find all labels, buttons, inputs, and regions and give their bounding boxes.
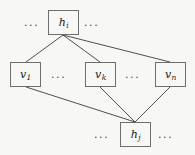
node-h-i[interactable]: hi [48, 10, 79, 35]
ellipsis-bottom-left: ... [94, 129, 109, 140]
node-h-j-label: hj [131, 129, 140, 140]
ellipsis-middle-right: ... [125, 69, 140, 80]
edge-hi-vn [63, 35, 170, 62]
graph-diagram: hi v1 vk vn hj ... ... ... ... ... ... [0, 0, 195, 155]
node-v-k-label: vk [95, 69, 106, 80]
edge-v1-hj [26, 87, 135, 122]
edge-vn-hj [135, 87, 170, 122]
node-v-n-label: vn [165, 69, 176, 80]
ellipsis-top-left: ... [24, 17, 39, 28]
ellipsis-middle-left: ... [51, 69, 66, 80]
node-v-k[interactable]: vk [85, 62, 116, 87]
ellipsis-top-right: ... [84, 17, 99, 28]
node-v-n[interactable]: vn [155, 62, 186, 87]
node-h-j[interactable]: hj [120, 122, 151, 147]
edge-hi-vk [63, 35, 100, 62]
node-h-i-label: hi [59, 17, 69, 28]
ellipsis-bottom-right: ... [158, 129, 173, 140]
node-v-1[interactable]: v1 [10, 62, 41, 87]
node-v-1-label: v1 [20, 69, 31, 80]
edge-hi-v1 [26, 35, 63, 62]
